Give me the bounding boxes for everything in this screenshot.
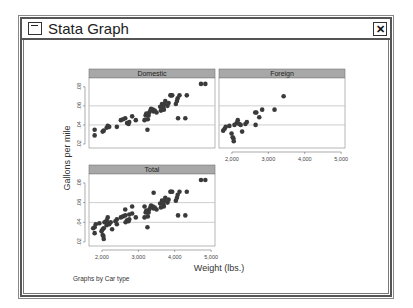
data-point — [253, 123, 258, 128]
data-point — [183, 213, 188, 218]
panel-title: Total — [145, 166, 160, 173]
data-point — [105, 215, 110, 220]
data-point — [123, 207, 128, 212]
panel-total: Total.02.04.06.082,0003,0004,0005,000 — [76, 165, 218, 260]
panel-domestic: Domestic.02.04.06.08 — [76, 69, 215, 148]
panel-title: Foreign — [270, 70, 294, 78]
data-point — [92, 127, 97, 132]
data-point — [203, 82, 208, 87]
data-point — [127, 217, 132, 222]
data-point — [115, 222, 120, 227]
data-point — [151, 190, 156, 195]
data-point — [260, 107, 265, 112]
x-tick-label: 3,000 — [131, 254, 145, 260]
y-tick-label: .06 — [76, 102, 82, 110]
data-point — [130, 211, 135, 216]
data-point — [184, 189, 189, 194]
data-point — [154, 207, 159, 212]
data-point — [184, 93, 189, 98]
x-axis-title: Weight (lbs.) — [194, 263, 244, 273]
data-point — [145, 127, 150, 132]
data-point — [92, 231, 97, 236]
data-point — [166, 101, 171, 106]
data-point — [130, 204, 135, 209]
y-tick-label: .08 — [76, 83, 82, 91]
data-point — [123, 213, 128, 218]
x-tick-label: 5,000 — [204, 254, 218, 260]
data-point — [145, 225, 150, 230]
data-point — [162, 204, 167, 209]
data-point — [101, 237, 106, 242]
data-point — [254, 110, 259, 115]
data-point — [108, 220, 113, 225]
data-point — [110, 227, 115, 232]
data-point — [142, 204, 147, 209]
panel-title: Domestic — [137, 70, 167, 77]
data-point — [127, 120, 132, 125]
data-point — [115, 125, 120, 130]
data-point — [231, 139, 236, 144]
data-point — [176, 213, 181, 218]
x-tick-label: 5,000 — [334, 156, 348, 162]
x-tick-label: 2,000 — [95, 254, 109, 260]
data-point — [177, 189, 182, 194]
data-point — [176, 116, 181, 121]
y-tick-label: .04 — [76, 218, 82, 226]
y-tick-label: .02 — [76, 238, 82, 246]
data-point — [146, 214, 151, 219]
data-point — [183, 116, 188, 121]
y-tick-label: .08 — [76, 179, 82, 187]
x-tick-label: 3,000 — [261, 156, 275, 162]
data-point — [177, 93, 182, 98]
y-tick-label: .04 — [76, 121, 82, 129]
y-tick-label: .02 — [76, 140, 82, 148]
data-point — [107, 125, 112, 130]
data-point — [199, 82, 204, 87]
data-point — [115, 217, 120, 222]
x-tick-label: 4,000 — [298, 156, 312, 162]
y-axis-title: Gallons per mile — [62, 125, 72, 190]
data-point — [281, 94, 286, 99]
data-point — [133, 118, 138, 123]
data-point — [203, 178, 208, 183]
graph-note: Graphs by Car type — [73, 275, 130, 283]
data-point — [133, 215, 138, 220]
x-tick-label: 2,000 — [225, 156, 239, 162]
data-point — [238, 123, 243, 128]
data-point — [97, 221, 102, 226]
data-point — [123, 116, 128, 121]
data-point — [154, 110, 159, 115]
y-tick-label: .06 — [76, 199, 82, 207]
data-point — [92, 133, 97, 138]
data-point — [162, 107, 167, 112]
panel-foreign: Foreign2,0003,0004,0005,000 — [219, 69, 348, 162]
x-tick-label: 4,000 — [168, 254, 182, 260]
data-point — [245, 120, 250, 125]
data-point — [240, 129, 245, 134]
data-point — [146, 117, 151, 122]
data-point — [166, 197, 171, 202]
data-point — [130, 114, 135, 119]
data-point — [170, 93, 175, 98]
data-point — [257, 115, 262, 120]
graph-area: Domestic.02.04.06.08Foreign2,0003,0004,0… — [0, 0, 413, 308]
data-point — [199, 178, 204, 183]
data-point — [170, 189, 175, 194]
data-point — [227, 124, 232, 129]
data-point — [272, 107, 277, 112]
